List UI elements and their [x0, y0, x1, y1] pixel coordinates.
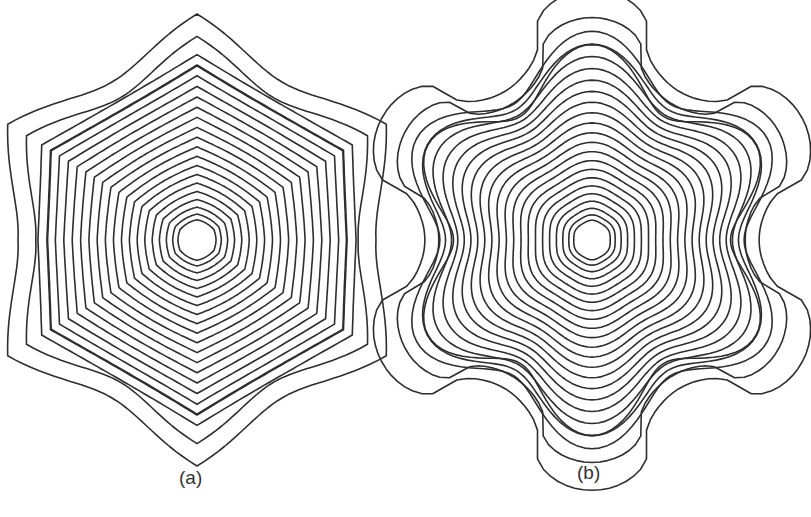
contour-line: [412, 31, 772, 449]
contour-line: [129, 165, 264, 314]
contour-line: [178, 220, 216, 260]
panel-label-a: (a): [179, 467, 202, 489]
contour-line: [528, 169, 656, 310]
contour-line: [471, 102, 712, 378]
contour-plot-b: [373, 0, 810, 490]
contour-line: [543, 186, 642, 294]
contour-line: [563, 208, 621, 271]
panel-label-b: (b): [577, 462, 600, 484]
contour-line: [137, 174, 257, 305]
contour-plot-a: [8, 14, 387, 466]
contour-line: [38, 55, 356, 426]
contour-figure: [0, 0, 811, 517]
contour-line: [166, 207, 227, 273]
contour-line: [424, 45, 761, 436]
contour-line: [443, 69, 741, 412]
contour-line: [505, 142, 679, 337]
contour-line: [397, 18, 786, 463]
contour-line: [159, 200, 234, 281]
contour-line: [173, 214, 222, 266]
contour-line: [72, 97, 322, 383]
contour-line: [97, 127, 297, 352]
contour-line: [105, 137, 288, 343]
contour-line: [453, 80, 731, 400]
contour-line: [556, 201, 627, 278]
contour-line: [569, 215, 615, 265]
contour-line: [536, 178, 649, 302]
contour-line: [64, 87, 330, 394]
contour-line: [574, 220, 610, 260]
contour-line: [489, 123, 696, 357]
contour-line: [497, 133, 687, 347]
